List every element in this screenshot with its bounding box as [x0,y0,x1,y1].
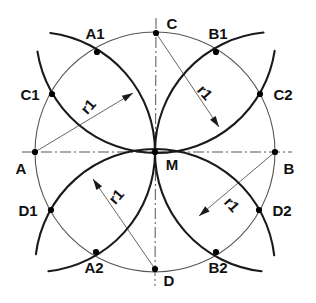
point-c2 [257,91,263,97]
point-a2 [93,249,99,255]
point-b2 [213,249,219,255]
point-m [152,149,158,155]
point-b [272,149,278,155]
point-a1 [94,49,100,55]
label-d2: D2 [272,202,291,219]
point-d [152,266,158,272]
label-c: C [167,15,178,32]
geometric-diagram: ABCDMA1B1C1C2D1D2A2B2 r1r1r1r1 [0,0,316,303]
label-c1: C1 [20,86,39,103]
point-d2 [256,207,262,213]
label-m: M [166,156,179,173]
label-d1: D1 [18,202,37,219]
construction-svg: ABCDMA1B1C1C2D1D2A2B2 r1r1r1r1 [0,0,316,303]
point-b1 [213,49,219,55]
label-d: D [164,272,175,289]
label-a1: A1 [85,25,104,42]
label-a: A [16,160,27,177]
point-c1 [49,91,55,97]
label-b1: B1 [208,25,227,42]
point-a [32,149,38,155]
point-c [153,30,159,36]
label-b: B [284,160,295,177]
label-a2: A2 [84,259,103,276]
point-d1 [48,207,54,213]
label-b2: B2 [208,259,227,276]
label-c2: C2 [273,86,292,103]
